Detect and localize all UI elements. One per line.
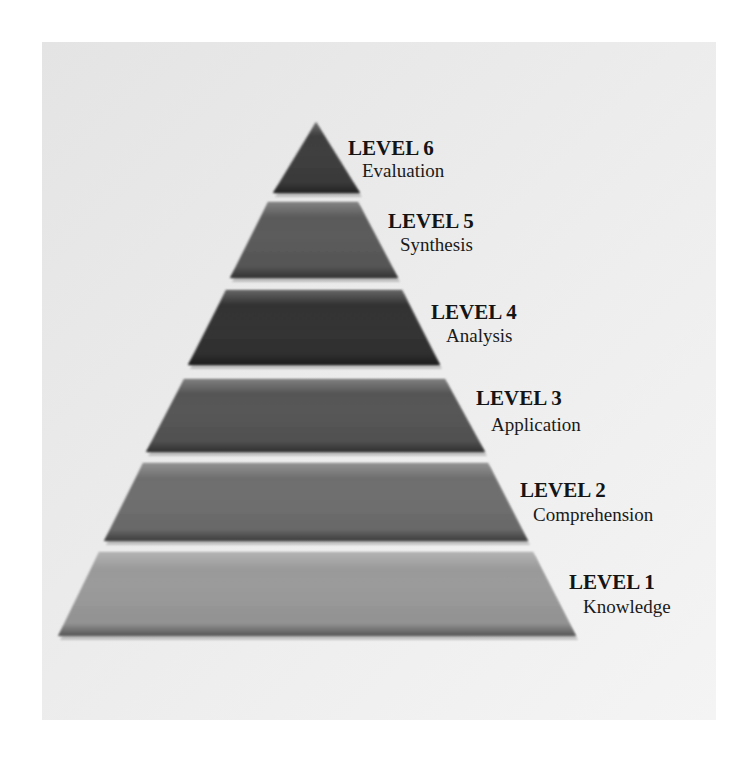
level-6-label: LEVEL 6 [348,136,434,160]
tier-5-bevel [230,202,398,278]
level-1-label: LEVEL 1 [569,570,655,594]
tier-3-bevel [146,379,485,452]
tier-4-bevel [188,290,440,365]
level-6-name: Evaluation [362,160,445,181]
level-3-label: LEVEL 3 [476,386,562,410]
level-2-label: LEVEL 2 [520,478,606,502]
tier-1-bevel [58,552,576,636]
level-5-name: Synthesis [400,234,473,255]
pyramid-diagram: LEVEL 6 Evaluation LEVEL 5 Synthesis LEV… [0,0,755,769]
level-4-name: Analysis [446,325,513,346]
level-4-label: LEVEL 4 [431,300,517,324]
level-1-name: Knowledge [583,596,671,617]
level-2-name: Comprehension [533,504,654,525]
tier-2-bevel [104,463,528,541]
level-3-name: Application [491,414,581,435]
level-5-label: LEVEL 5 [388,209,474,233]
tier-6-bevel [273,122,360,193]
